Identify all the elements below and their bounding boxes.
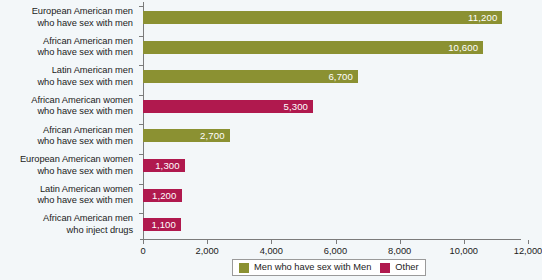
legend-label: Men who have sex with Men (254, 262, 371, 273)
bar[interactable]: 11,200 (143, 11, 502, 24)
x-axis-tick-label: 0 (140, 245, 145, 257)
category-label-line1: African American men (0, 36, 133, 47)
category-label-line1: African American men (0, 213, 133, 224)
bar[interactable]: 2,700 (143, 129, 230, 142)
category-label-line2: who have sex with men (0, 166, 133, 177)
x-axis-tick-label: 6,000 (324, 245, 347, 257)
category-label-line1: European American women (0, 154, 133, 165)
plot-area: 11,20010,6006,7005,3002,7001,3001,2001,1… (143, 0, 541, 240)
category-label-line2: who have sex with men (0, 18, 133, 29)
legend-swatch-icon (239, 263, 249, 273)
category-label: African American menwho have sex with me… (0, 125, 133, 148)
y-axis-tick (139, 154, 143, 155)
x-axis-tick (207, 240, 208, 244)
x-axis-tick-label: 12,000 (514, 245, 542, 257)
category-label-line1: Latin American women (0, 184, 133, 195)
y-axis-tick (139, 213, 143, 214)
category-label-line2: who have sex with men (0, 77, 133, 88)
x-axis-tick (400, 240, 401, 244)
x-axis-tick-label: 8,000 (388, 245, 411, 257)
y-axis-tick (139, 184, 143, 185)
bar[interactable]: 6,700 (143, 70, 358, 83)
category-label: Latin American womenwho have sex with me… (0, 184, 133, 207)
bar[interactable]: 1,100 (143, 218, 181, 231)
x-axis-tick (464, 240, 465, 244)
y-axis-tick (139, 6, 143, 7)
x-axis-tick (271, 240, 272, 244)
category-label-line1: Latin American men (0, 65, 133, 76)
bar[interactable]: 1,300 (143, 159, 185, 172)
x-axis-tick (336, 240, 337, 244)
category-axis-labels: European American menwho have sex with m… (0, 0, 138, 240)
x-axis-tick-label: 2,000 (196, 245, 219, 257)
category-label: European American menwho have sex with m… (0, 6, 133, 29)
bar[interactable]: 10,600 (143, 41, 483, 54)
y-axis-tick (139, 124, 143, 125)
category-label-line2: who have sex with men (0, 195, 133, 206)
category-label-line1: European American men (0, 6, 133, 17)
legend-entry[interactable]: Other (380, 262, 418, 273)
category-label-line1: African American men (0, 125, 133, 136)
x-axis-tick-label: 10,000 (450, 245, 478, 257)
category-label-line2: who inject drugs (0, 225, 133, 236)
bar[interactable]: 1,200 (143, 189, 182, 202)
category-label: European American womenwho have sex with… (0, 154, 133, 177)
x-axis-tick-labels: 02,0004,0006,0008,00010,00012,000 (143, 245, 541, 259)
y-axis-line (143, 2, 144, 240)
x-axis-tick (528, 240, 529, 244)
category-label-line1: African American women (0, 95, 133, 106)
category-label: African American menwho inject drugs (0, 213, 133, 236)
legend-swatch-icon (380, 263, 390, 273)
category-label: African American menwho have sex with me… (0, 36, 133, 59)
x-axis-tick (143, 240, 144, 244)
category-label-line2: who have sex with men (0, 47, 133, 58)
category-label: Latin American menwho have sex with men (0, 65, 133, 88)
category-label-line2: who have sex with men (0, 106, 133, 117)
legend-label: Other (395, 262, 418, 273)
chart-legend: Men who have sex with MenOther (232, 259, 426, 276)
category-label: African American womenwho have sex with … (0, 95, 133, 118)
y-axis-tick (139, 65, 143, 66)
legend-entry[interactable]: Men who have sex with Men (239, 262, 371, 273)
x-axis-tick-label: 4,000 (260, 245, 283, 257)
y-axis-tick (139, 95, 143, 96)
category-label-line2: who have sex with men (0, 136, 133, 147)
bar[interactable]: 5,300 (143, 100, 313, 113)
y-axis-tick (139, 36, 143, 37)
